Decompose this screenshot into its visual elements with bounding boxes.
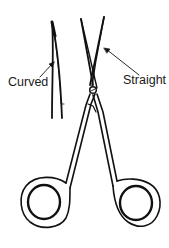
pivot-screw bbox=[90, 87, 97, 94]
curved-label: Curved bbox=[8, 76, 48, 89]
straight-blades bbox=[81, 17, 104, 88]
right-finger-ring bbox=[113, 179, 160, 226]
scissors-illustration bbox=[0, 0, 169, 248]
straight-pointer-arrow bbox=[104, 48, 139, 75]
straight-label: Straight bbox=[123, 74, 166, 87]
left-finger-ring bbox=[21, 177, 70, 227]
scissors-shanks bbox=[66, 94, 117, 188]
scissors-diagram: Curved Straight bbox=[0, 0, 169, 248]
curved-blade-detail bbox=[52, 22, 64, 118]
